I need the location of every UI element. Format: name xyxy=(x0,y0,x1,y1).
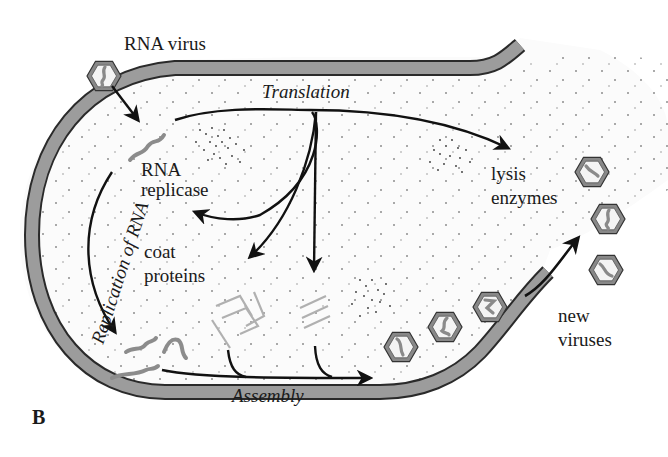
label-new-2: viruses xyxy=(558,329,612,350)
label-coat-1: coat xyxy=(144,241,176,262)
label-lysis-1: lysis xyxy=(491,163,526,184)
label-assembly: Assembly xyxy=(230,385,304,406)
label-coat-2: proteins xyxy=(144,265,205,286)
rna-virus-lifecycle-diagram: RNA virus Translation RNA replicase lysi… xyxy=(0,0,668,457)
label-rna-replicase-1: RNA xyxy=(141,159,181,180)
diagram-canvas: RNA virus Translation RNA replicase lysi… xyxy=(0,0,668,457)
label-rna-virus: RNA virus xyxy=(124,33,206,54)
label-new-1: new xyxy=(558,305,590,326)
label-rna-replicase-2: replicase xyxy=(141,179,209,200)
panel-label: B xyxy=(32,406,45,428)
label-translation: Translation xyxy=(262,81,350,102)
label-lysis-2: enzymes xyxy=(491,187,557,208)
released-virion-3 xyxy=(589,255,623,284)
